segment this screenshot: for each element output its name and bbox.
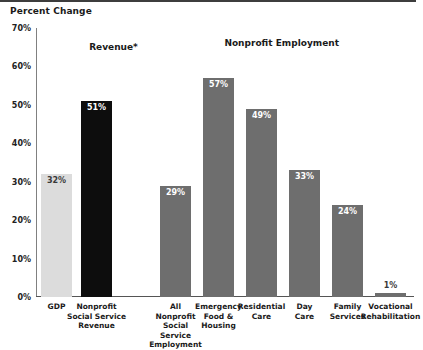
x-label-vocational-rehabilitation: VocationalRehabilitation [359,302,423,321]
bar-value-label: 57% [203,81,234,89]
y-axis-tick-60: 60% [12,62,31,71]
bar-vocational-rehabilitation: 1% [375,293,406,297]
x-label-line: Nonprofit [65,302,129,312]
y-axis-tick-0: 0% [17,293,31,302]
x-label-line: Vocational [359,302,423,312]
bar-gdp: 32% [41,174,72,297]
y-axis-tick-50: 50% [12,100,31,109]
bar-nonprofit-social-service-revenue: 51% [81,101,112,297]
x-label-line: Service [144,331,208,341]
bar-value-label: 29% [160,189,191,197]
bar-family-services: 24% [332,205,363,297]
y-axis-tick-40: 40% [12,139,31,148]
top-divider-rule [0,0,416,2]
bar-value-label: 33% [289,173,320,181]
plot-area: 0%10%20%30%40%50%60%70% Revenue*Nonprofi… [36,28,414,297]
y-axis-tick-70: 70% [12,24,31,33]
y-axis-tick-10: 10% [12,254,31,263]
bar-emergency-food-housing: 57% [203,78,234,297]
x-label-line: Revenue [65,321,129,331]
bar-value-label: 49% [246,112,277,120]
bar-value-label: 32% [41,177,72,185]
x-label-line: Social Service [65,312,129,322]
y-axis-tick-20: 20% [12,216,31,225]
chart-title: Percent Change [10,6,92,16]
x-label-line: Employment [144,340,208,350]
bar-value-label: 24% [332,208,363,216]
bar-all-nonprofit-social-service-employment: 29% [160,186,191,297]
bar-value-label: 1% [375,282,406,290]
x-label-line: Housing [187,321,251,331]
bar-residential-care: 49% [246,109,277,297]
group-header-nonprofit-employment: Nonprofit Employment [224,38,339,48]
y-axis-line [36,28,37,297]
bar-day-care: 33% [289,170,320,297]
x-label-nonprofit-social-service-revenue: NonprofitSocial ServiceRevenue [65,302,129,331]
y-axis-tick-30: 30% [12,177,31,186]
bar-value-label: 51% [81,104,112,112]
group-header-revenue: Revenue* [89,42,138,52]
x-label-line: Rehabilitation [359,312,423,322]
